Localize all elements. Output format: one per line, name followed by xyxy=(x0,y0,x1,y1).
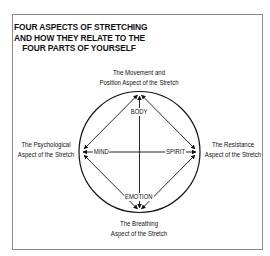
aspect-left: The Psychological Aspect of the Stretch xyxy=(11,140,82,159)
arrow-top-right xyxy=(142,95,196,149)
part-emotion: EMOTION xyxy=(124,193,153,201)
aspect-top-line-2: Position Aspect of the Stretch xyxy=(86,78,193,88)
aspect-bottom-line-2: Aspect of the Stretch xyxy=(94,229,184,239)
part-spirit: SPIRIT xyxy=(165,148,186,156)
aspect-top: The Movement and Position Aspect of the … xyxy=(86,68,193,87)
aspect-right-line-1: The Resistance xyxy=(198,140,269,150)
aspect-right: The Resistance Aspect of the Stretch xyxy=(198,140,269,159)
aspect-right-line-2: Aspect of the Stretch xyxy=(198,150,269,160)
stretch-aspects-diagram xyxy=(0,0,270,256)
part-mind: MIND xyxy=(93,148,110,156)
aspect-bottom-line-1: The Breathing xyxy=(94,219,184,229)
part-body: BODY xyxy=(130,108,148,116)
aspect-bottom: The Breathing Aspect of the Stretch xyxy=(94,219,184,238)
aspect-top-line-1: The Movement and xyxy=(86,68,193,78)
arrow-left-top xyxy=(84,95,138,149)
aspect-left-line-2: Aspect of the Stretch xyxy=(11,150,82,160)
aspect-left-line-1: The Psychological xyxy=(11,140,82,150)
